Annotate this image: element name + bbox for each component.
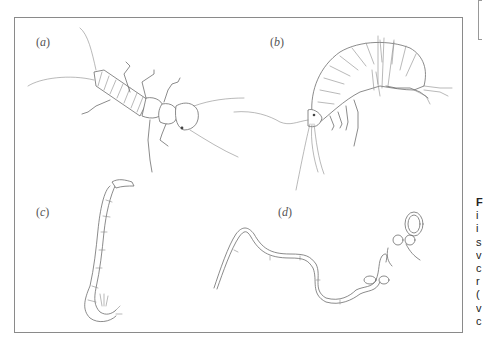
- stonefly-nymph-illustration: [28, 28, 244, 172]
- oligochaete-worm-illustration: [214, 212, 423, 304]
- clipped-side-caption: F i i s v c r ( v c: [476, 196, 486, 328]
- amphipod-illustration: [234, 36, 452, 190]
- chironomid-larva-illustration: [85, 180, 134, 322]
- clipped-neighbor-box: [478, 0, 482, 40]
